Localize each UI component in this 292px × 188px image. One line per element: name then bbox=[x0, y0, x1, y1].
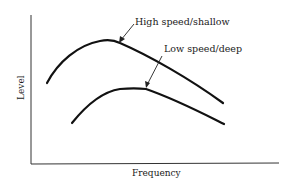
frequency-level-diagram: High speed/shallow Low speed/deep Freque… bbox=[0, 0, 292, 188]
x-axis bbox=[31, 163, 279, 164]
arrowhead-icon bbox=[119, 36, 125, 43]
curve-low-speed-deep bbox=[72, 88, 224, 124]
label-high-speed-shallow: High speed/shallow bbox=[135, 16, 230, 27]
label-low-speed-deep: Low speed/deep bbox=[164, 43, 242, 54]
arrow-low-speed-deep bbox=[145, 56, 162, 88]
y-axis-label: Level bbox=[16, 75, 26, 100]
arrowhead-icon bbox=[145, 81, 150, 88]
arrow-high-speed-shallow bbox=[119, 24, 134, 43]
x-axis-label: Frequency bbox=[132, 168, 182, 178]
